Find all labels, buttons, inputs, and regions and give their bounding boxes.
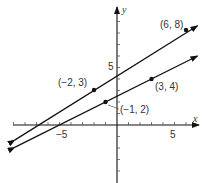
label-3-4: (3, 4) (155, 81, 178, 92)
label-neg1-2: (−1, 2) (120, 104, 149, 115)
point-neg1-2 (103, 100, 107, 104)
x-tick-label-5: 5 (170, 129, 176, 140)
y-axis-label: y (121, 4, 127, 15)
point-6-8 (184, 28, 188, 32)
x-axis-label: x (192, 113, 198, 124)
coordinate-plane: x y 5 −5 5 (6, 8) (−2, 3) (3, 4) (−1, 2) (0, 0, 211, 183)
x-tick-label-neg5: −5 (56, 129, 68, 140)
label-6-8: (6, 8) (160, 19, 183, 30)
label-neg2-3: (−2, 3) (58, 77, 87, 88)
point-3-4 (149, 77, 153, 81)
y-tick-label-5: 5 (108, 61, 114, 72)
point-neg2-3 (92, 88, 96, 92)
